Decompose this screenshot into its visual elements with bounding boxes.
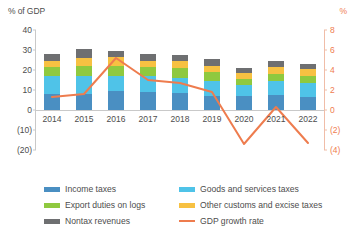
bar-segment [300, 83, 316, 97]
bar-segment [268, 81, 284, 95]
bar-segment [300, 97, 316, 110]
legend-label: Other customs and excise taxes [200, 200, 322, 210]
x-tick-label: 2021 [260, 114, 292, 124]
right-tick-mark [324, 50, 327, 51]
bar-group[interactable] [140, 54, 156, 110]
bar-segment [268, 74, 284, 81]
bar-segment [204, 81, 220, 96]
bar-segment [300, 76, 316, 83]
bar-segment [236, 85, 252, 96]
right-axis-title: % [339, 6, 347, 16]
right-tick-mark [324, 90, 327, 91]
legend-nontax-revenues[interactable]: Nontax revenues [44, 216, 130, 226]
legend-swatch-icon [179, 203, 195, 208]
bar-segment [140, 67, 156, 76]
right-tick-label: 6 [330, 45, 353, 55]
left-tick-label: (10) [6, 125, 32, 135]
legend-goods-and-services-taxes[interactable]: Goods and services taxes [179, 184, 299, 194]
legend-income-taxes[interactable]: Income taxes [44, 184, 116, 194]
legend-gdp-growth-rate[interactable]: GDP growth rate [179, 216, 264, 226]
legend-label: Export duties on logs [65, 200, 145, 210]
legend-swatch-icon [44, 187, 60, 192]
bar-segment [108, 66, 124, 76]
left-tick-label: 10 [6, 85, 32, 95]
bar-group[interactable] [236, 68, 252, 110]
bar-group[interactable] [268, 61, 284, 110]
left-tick-label: 0 [6, 105, 32, 115]
bar-group[interactable] [76, 49, 92, 110]
bar-segment [44, 76, 60, 94]
legend-export-duties-on-logs[interactable]: Export duties on logs [44, 200, 145, 210]
right-tick-label: 2 [330, 85, 353, 95]
bar-segment [76, 94, 92, 110]
bar-segment [108, 91, 124, 110]
bar-segment [140, 76, 156, 92]
legend-other-customs-and-excise-taxes[interactable]: Other customs and excise taxes [179, 200, 322, 210]
right-tick-mark [324, 30, 327, 31]
x-tick-label: 2017 [132, 114, 164, 124]
right-tick-label: 4 [330, 65, 353, 75]
left-tick-label: 40 [6, 25, 32, 35]
bar-segment [204, 59, 220, 66]
legend-swatch-icon [44, 219, 60, 224]
bar-segment [76, 49, 92, 58]
bar-group[interactable] [300, 64, 316, 110]
legend-swatch-icon [179, 187, 195, 192]
bar-segment [268, 95, 284, 110]
bar-group[interactable] [172, 55, 188, 110]
right-tick-mark [324, 130, 327, 131]
x-tick-label: 2015 [68, 114, 100, 124]
x-tick-label: 2019 [196, 114, 228, 124]
bar-segment [300, 69, 316, 76]
right-tick-label: 8 [330, 25, 353, 35]
x-tick-label: 2016 [100, 114, 132, 124]
left-tick-label: 20 [6, 65, 32, 75]
right-tick-label: 0 [330, 105, 353, 115]
bar-segment [44, 67, 60, 76]
legend-swatch-icon [179, 220, 195, 223]
bar-segment [108, 76, 124, 91]
bar-segment [76, 76, 92, 94]
bar-segment [140, 92, 156, 110]
bar-segment [44, 54, 60, 61]
bar-segment [172, 78, 188, 93]
bar-segment [172, 93, 188, 110]
bar-segment [172, 61, 188, 68]
legend-label: Nontax revenues [65, 216, 130, 226]
bar-segment [140, 54, 156, 61]
left-axis-title: % of GDP [8, 6, 45, 16]
bar-segment [172, 68, 188, 78]
legend-label: Goods and services taxes [200, 184, 299, 194]
bar-segment [268, 67, 284, 74]
right-tick-mark [324, 70, 327, 71]
bar-segment [204, 72, 220, 81]
right-tick-label: (2) [330, 125, 353, 135]
bar-series-group [36, 30, 324, 150]
legend-label: Income taxes [65, 184, 116, 194]
bar-group[interactable] [108, 51, 124, 110]
bar-segment [44, 94, 60, 110]
x-tick-label: 2018 [164, 114, 196, 124]
x-tick-label: 2022 [292, 114, 324, 124]
right-tick-mark [324, 150, 327, 151]
bar-segment [204, 96, 220, 110]
right-tick-label: (4) [330, 145, 353, 155]
chart-legend: Income taxesExport duties on logsNontax … [0, 184, 353, 236]
bar-group[interactable] [204, 59, 220, 110]
plot-area: 403020100(10)(20) 86420(2)(4) 2014201520… [36, 30, 324, 150]
bar-segment [76, 58, 92, 66]
bar-segment [236, 96, 252, 110]
bar-group[interactable] [44, 54, 60, 110]
legend-swatch-icon [44, 203, 60, 208]
chart-root: % of GDP % 403020100(10)(20) 86420(2)(4)… [0, 0, 353, 236]
left-tick-label: 30 [6, 45, 32, 55]
left-tick-label: (20) [6, 145, 32, 155]
x-tick-label: 2020 [228, 114, 260, 124]
legend-label: GDP growth rate [200, 216, 264, 226]
x-tick-label: 2014 [36, 114, 68, 124]
bar-segment [76, 66, 92, 76]
bar-segment [108, 57, 124, 66]
right-tick-mark [324, 110, 327, 111]
